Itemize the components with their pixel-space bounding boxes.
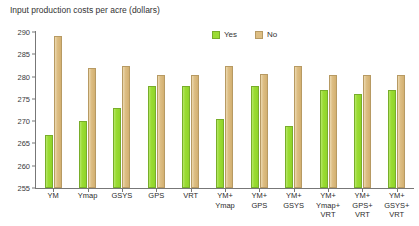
bar-group <box>311 32 345 188</box>
bar-yes <box>79 121 87 188</box>
bar-group <box>139 32 173 188</box>
x-axis-label: GPS <box>139 191 173 220</box>
x-axis-label: YM+ GPS <box>242 191 276 220</box>
x-axis-label: YM+ GSYS <box>277 191 311 220</box>
bar-no <box>363 75 371 188</box>
bar-group <box>380 32 414 188</box>
x-axis-label: Ymap <box>70 191 104 220</box>
bar-group <box>36 32 70 188</box>
bar-no <box>88 68 96 188</box>
bar-no <box>225 66 233 188</box>
bar-group <box>173 32 207 188</box>
bar-no <box>397 75 405 188</box>
bar-groups <box>36 32 414 188</box>
bar-no <box>157 75 165 188</box>
x-axis-label: YM+ Ymap <box>208 191 242 220</box>
x-axis-label: YM+ GPS+ VRT <box>345 191 379 220</box>
bar-group <box>70 32 104 188</box>
bar-no <box>122 66 130 188</box>
x-axis-label: VRT <box>173 191 207 220</box>
bar-no <box>294 66 302 188</box>
x-axis-label: GSYS <box>105 191 139 220</box>
x-axis-label: YM+ Ymap+ VRT <box>311 191 345 220</box>
bar-yes <box>182 86 190 189</box>
bar-yes <box>45 135 53 188</box>
x-axis-label: YM+ GSYS+ VRT <box>380 191 414 220</box>
bar-group <box>345 32 379 188</box>
bar-chart: Input production costs per acre (dollars… <box>0 0 419 226</box>
bar-group <box>105 32 139 188</box>
bar-yes <box>285 126 293 188</box>
plot-area: 255260265270275280285290 <box>36 32 414 188</box>
x-axis-labels: YMYmapGSYSGPSVRTYM+ YmapYM+ GPSYM+ GSYSY… <box>36 191 414 220</box>
bar-yes <box>216 119 224 188</box>
bar-no <box>260 74 268 188</box>
bar-no <box>54 36 62 188</box>
bar-yes <box>320 90 328 188</box>
bar-yes <box>251 86 259 189</box>
bar-no <box>191 75 199 188</box>
bar-yes <box>148 86 156 189</box>
bar-group <box>208 32 242 188</box>
chart-title: Input production costs per acre (dollars… <box>10 5 160 15</box>
bar-group <box>277 32 311 188</box>
bar-yes <box>113 108 121 188</box>
bar-yes <box>388 90 396 188</box>
bar-yes <box>354 94 362 188</box>
bar-group <box>242 32 276 188</box>
x-axis-label: YM <box>36 191 70 220</box>
bar-no <box>329 75 337 188</box>
